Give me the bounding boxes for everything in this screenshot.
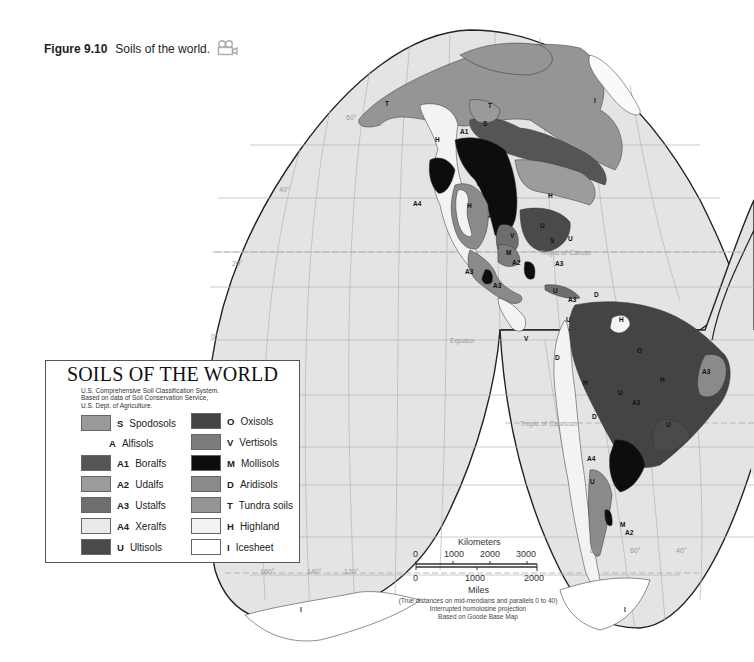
svg-text:I: I	[300, 606, 302, 613]
legend-item-ustalfs: A3Ustalfs	[81, 497, 166, 513]
legend-title: SOILS OF THE WORLD	[46, 363, 299, 386]
svg-text:A3: A3	[493, 282, 502, 289]
legend-item-icesheet: IIcesheet	[191, 539, 273, 555]
legend-swatch	[191, 455, 221, 471]
legend-swatch	[191, 539, 221, 555]
svg-text:M: M	[506, 249, 511, 256]
svg-text:A3: A3	[488, 212, 497, 219]
label-lat-40: 40°	[279, 186, 290, 193]
scale-bar-graphic	[415, 560, 540, 572]
legend-swatch	[191, 497, 221, 513]
svg-text:H: H	[660, 376, 665, 383]
label-lon-140: 140°	[307, 568, 322, 575]
svg-text:A3: A3	[465, 268, 474, 275]
legend-item-spodosols: SSpodosols	[81, 415, 176, 431]
svg-text:A2: A2	[625, 529, 634, 536]
legend-swatch	[81, 455, 111, 471]
svg-text:U: U	[590, 478, 595, 485]
legend-item-ultisols: UUltisols	[81, 539, 162, 555]
legend-item-alfisols: AAlfisols	[109, 435, 154, 451]
svg-text:U: U	[553, 287, 558, 294]
svg-text:U: U	[540, 222, 545, 229]
label-tropic-of-cancer: Tropic of Cancer	[540, 249, 592, 257]
label-equator: Equator	[450, 337, 475, 345]
svg-text:A3: A3	[555, 260, 564, 267]
svg-text:H: H	[619, 316, 624, 323]
svg-text:I: I	[624, 606, 626, 613]
legend-item-aridisols: DAridisols	[191, 476, 278, 492]
label-lon-120: 120°	[344, 568, 359, 575]
svg-text:D: D	[477, 180, 482, 187]
legend-swatch	[191, 518, 221, 534]
svg-text:U: U	[566, 316, 571, 323]
svg-text:A4: A4	[413, 200, 422, 207]
svg-text:H: H	[467, 202, 472, 209]
svg-text:H: H	[435, 136, 440, 143]
legend-swatch	[81, 476, 111, 492]
legend-swatch	[191, 434, 221, 450]
svg-text:U: U	[666, 421, 671, 428]
svg-text:S: S	[550, 237, 555, 244]
legend-item-oxisols: OOxisols	[191, 413, 273, 429]
legend-item-highland: HHighland	[191, 518, 279, 534]
scale-km-label: Kilometers	[458, 537, 501, 547]
svg-text:T: T	[385, 100, 389, 107]
label-lon-40: 40°	[676, 547, 687, 554]
projection-notes: (True distances on mid-meridians and par…	[378, 597, 578, 621]
svg-text:A2: A2	[512, 259, 521, 266]
legend-item-xeralfs: A4Xeralfs	[81, 518, 166, 534]
svg-text:U: U	[618, 389, 623, 396]
label-lon-80: 80°	[590, 547, 601, 554]
legend-swatch	[81, 497, 111, 513]
svg-text:D: D	[592, 413, 597, 420]
label-lat-0: 0°	[211, 333, 218, 340]
legend-swatch	[191, 476, 221, 492]
legend-item-boralfs: A1Boralfs	[81, 455, 166, 471]
label-lon-160: 160°	[260, 568, 275, 575]
svg-text:I: I	[594, 97, 596, 104]
svg-text:U: U	[568, 235, 573, 242]
svg-text:D: D	[615, 480, 620, 487]
svg-text:A3: A3	[702, 368, 711, 375]
svg-text:V: V	[510, 232, 515, 239]
legend-item-vertisols: VVertisols	[191, 434, 277, 450]
svg-text:H: H	[583, 379, 588, 386]
svg-text:A1: A1	[460, 128, 469, 135]
label-lat-20: 20°	[232, 260, 243, 267]
svg-text:A3: A3	[568, 296, 577, 303]
label-tropic-of-capricorn: Tropic of Capricorn	[520, 420, 579, 428]
svg-text:M: M	[620, 521, 625, 528]
svg-text:A3: A3	[632, 399, 641, 406]
svg-text:V: V	[524, 335, 529, 342]
legend-swatch	[191, 413, 221, 429]
label-lon-60: 60°	[630, 547, 641, 554]
legend-item-mollisols: MMollisols	[191, 455, 279, 471]
legend-item-tundra-soils: TTundra soils	[191, 497, 293, 513]
legend-swatch	[81, 518, 111, 534]
svg-text:D: D	[594, 291, 599, 298]
svg-text:D: D	[555, 354, 560, 361]
svg-text:A4: A4	[587, 455, 596, 462]
legend-swatch	[81, 415, 111, 431]
legend-subtitle: U.S. Comprehensive Soil Classification S…	[81, 387, 219, 409]
legend-item-udalfs: A2Udalfs	[81, 476, 164, 492]
legend-swatch	[81, 539, 111, 555]
svg-text:O: O	[637, 347, 642, 354]
scale-mi-label: Miles	[468, 585, 489, 595]
svg-text:S: S	[483, 120, 488, 127]
legend-panel: SOILS OF THE WORLD U.S. Comprehensive So…	[45, 360, 300, 563]
label-lat-60: 60°	[346, 114, 357, 121]
svg-text:T: T	[488, 102, 492, 109]
svg-text:H: H	[548, 192, 553, 199]
